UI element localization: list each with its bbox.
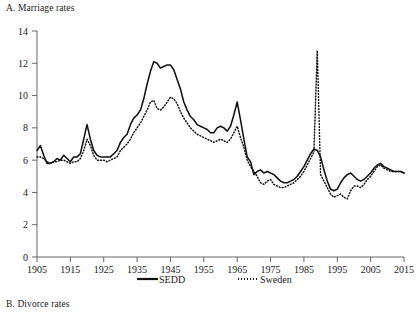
x-tick-label-2005: 2005	[361, 264, 381, 275]
x-tick-label-1925: 1925	[94, 264, 114, 275]
y-axis-ticks	[32, 31, 37, 257]
marriage-rates-line-chart: 02468101214 1905191519251935194519551965…	[0, 14, 420, 296]
panel-b-title: B. Divorce rates	[6, 299, 70, 309]
x-axis-ticks	[37, 257, 404, 262]
x-tick-label-1935: 1935	[127, 264, 147, 275]
y-tick-label-2: 2	[23, 219, 28, 230]
legend-label-sweden: Sweden	[260, 274, 292, 285]
y-tick-label-0: 0	[23, 252, 28, 263]
y-tick-label-12: 12	[18, 58, 28, 69]
x-tick-label-1915: 1915	[60, 264, 80, 275]
x-tick-label-1905: 1905	[27, 264, 47, 275]
chart-legend: SEDD Sweden	[137, 274, 292, 285]
panel-a-title: A. Marriage rates	[6, 3, 74, 13]
y-tick-label-6: 6	[23, 155, 28, 166]
y-tick-label-10: 10	[18, 90, 28, 101]
y-axis-tick-labels: 02468101214	[18, 26, 28, 263]
y-tick-label-14: 14	[18, 26, 28, 37]
y-tick-label-8: 8	[23, 122, 28, 133]
x-axis-tick-labels: 1905191519251935194519551965197519851995…	[27, 264, 414, 275]
y-tick-label-4: 4	[23, 187, 28, 198]
x-tick-label-1985: 1985	[294, 264, 314, 275]
figure-panel-a-marriage-rates: A. Marriage rates B. Divorce rates 02468…	[0, 0, 420, 315]
x-tick-label-1995: 1995	[327, 264, 347, 275]
series-line-sweden	[37, 50, 404, 199]
series-line-sedd	[37, 62, 404, 191]
legend-label-sedd: SEDD	[159, 274, 185, 285]
x-tick-label-1965: 1965	[227, 264, 247, 275]
x-tick-label-1955: 1955	[194, 264, 214, 275]
x-tick-label-2015: 2015	[394, 264, 414, 275]
